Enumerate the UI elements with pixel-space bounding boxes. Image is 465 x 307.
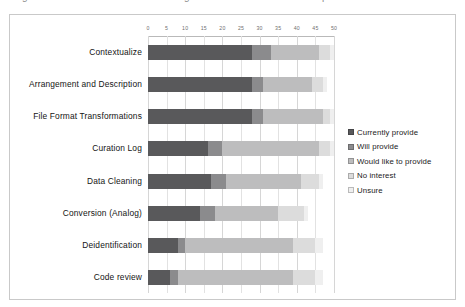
bar-segment[interactable] xyxy=(148,45,252,60)
bar-row[interactable]: Deidentification xyxy=(148,229,334,261)
stacked-bar[interactable] xyxy=(148,238,334,253)
bar-segment[interactable] xyxy=(211,174,226,189)
x-tick-label: 15 xyxy=(201,25,207,31)
bar-segment[interactable] xyxy=(293,238,315,253)
bar-segment[interactable] xyxy=(148,77,252,92)
stacked-bar[interactable] xyxy=(148,174,334,189)
bar-segment[interactable] xyxy=(330,109,334,124)
bar-segment[interactable] xyxy=(315,270,322,285)
bar-segment[interactable] xyxy=(148,238,178,253)
category-label: Curation Log xyxy=(92,143,142,153)
bar-series-container: ContextualizeArrangement and Description… xyxy=(148,36,334,293)
x-axis-tick-labels: 05101520253035404550 xyxy=(148,25,334,36)
bar-row[interactable]: Conversion (Analog) xyxy=(148,197,334,229)
bar-segment[interactable] xyxy=(323,109,330,124)
bar-segment[interactable] xyxy=(208,141,223,156)
bar-segment[interactable] xyxy=(148,206,200,221)
legend-label: No interest xyxy=(357,171,396,180)
gridline xyxy=(334,36,335,293)
legend-swatch-icon xyxy=(348,158,354,164)
legend-item[interactable]: Currently provide xyxy=(348,127,452,137)
bar-segment[interactable] xyxy=(178,270,293,285)
bar-segment[interactable] xyxy=(200,206,215,221)
plot-area: 05101520253035404550 ContextualizeArrang… xyxy=(148,25,334,293)
x-tick-label: 25 xyxy=(238,25,244,31)
bar-segment[interactable] xyxy=(170,270,177,285)
cut-text-fragment-3: g xyxy=(184,0,190,2)
legend-swatch-icon xyxy=(348,173,354,179)
x-tick-label: 10 xyxy=(182,25,188,31)
stacked-bar[interactable] xyxy=(148,206,334,221)
bar-row[interactable]: Contextualize xyxy=(148,36,334,68)
legend-swatch-icon xyxy=(348,144,354,150)
bar-segment[interactable] xyxy=(319,45,330,60)
x-tick-label: 30 xyxy=(257,25,263,31)
bar-segment[interactable] xyxy=(319,141,330,156)
chart-figure: 05101520253035404550 ContextualizeArrang… xyxy=(9,14,456,300)
bar-segment[interactable] xyxy=(215,206,278,221)
bar-row[interactable]: File Format Transformations xyxy=(148,100,334,132)
stacked-bar[interactable] xyxy=(148,45,334,60)
bar-segment[interactable] xyxy=(323,77,327,92)
bar-segment[interactable] xyxy=(304,206,308,221)
stacked-bar[interactable] xyxy=(148,109,334,124)
bar-segment[interactable] xyxy=(293,270,315,285)
bar-row[interactable]: Curation Log xyxy=(148,132,334,164)
x-tick-label: 0 xyxy=(146,25,149,31)
category-label: Conversion (Analog) xyxy=(63,208,142,218)
cut-text-fragment-4: p xyxy=(322,0,328,2)
bar-segment[interactable] xyxy=(226,174,300,189)
bar-row[interactable]: Arrangement and Description xyxy=(148,68,334,100)
category-label: Arrangement and Description xyxy=(29,79,142,89)
bar-segment[interactable] xyxy=(252,109,263,124)
bar-segment[interactable] xyxy=(263,109,323,124)
legend-item[interactable]: Would like to provide xyxy=(348,156,452,166)
bar-segment[interactable] xyxy=(178,238,185,253)
stacked-bar[interactable] xyxy=(148,270,334,285)
bar-segment[interactable] xyxy=(330,45,334,60)
bar-segment[interactable] xyxy=(148,174,211,189)
category-label: Contextualize xyxy=(89,47,142,57)
bar-segment[interactable] xyxy=(222,141,319,156)
chart-legend: Currently provideWill provideWould like … xyxy=(348,127,452,200)
category-label: Code review xyxy=(94,272,142,282)
bar-segment[interactable] xyxy=(148,270,170,285)
cut-text-fragment-1: g xyxy=(22,0,28,2)
stacked-bar[interactable] xyxy=(148,77,334,92)
bar-segment[interactable] xyxy=(278,206,304,221)
bar-segment[interactable] xyxy=(185,238,293,253)
bar-segment[interactable] xyxy=(301,174,320,189)
legend-label: Will provide xyxy=(357,142,399,151)
bar-segment[interactable] xyxy=(252,45,271,60)
legend-item[interactable]: Will provide xyxy=(348,142,452,152)
legend-label: Unsure xyxy=(357,186,383,195)
legend-swatch-icon xyxy=(348,187,354,193)
cut-text-fragment-2: rr xyxy=(78,0,85,2)
bar-segment[interactable] xyxy=(315,238,322,253)
bar-segment[interactable] xyxy=(319,174,323,189)
bar-segment[interactable] xyxy=(263,77,311,92)
legend-item[interactable]: Unsure xyxy=(348,185,452,195)
legend-label: Would like to provide xyxy=(357,157,431,166)
bar-segment[interactable] xyxy=(252,77,263,92)
category-label: Data Cleaning xyxy=(87,176,142,186)
bar-row[interactable]: Data Cleaning xyxy=(148,165,334,197)
bar-segment[interactable] xyxy=(148,109,252,124)
cut-off-text-strip: g rr g p xyxy=(0,0,465,12)
x-tick-label: 35 xyxy=(275,25,281,31)
category-label: File Format Transformations xyxy=(33,111,142,121)
bar-segment[interactable] xyxy=(148,141,208,156)
bar-row[interactable]: Code review xyxy=(148,261,334,293)
bar-segment[interactable] xyxy=(330,141,334,156)
legend-swatch-icon xyxy=(348,129,354,135)
legend-item[interactable]: No interest xyxy=(348,171,452,181)
category-label: Deidentification xyxy=(82,240,142,250)
x-tick-label: 20 xyxy=(219,25,225,31)
bar-segment[interactable] xyxy=(271,45,319,60)
x-tick-label: 50 xyxy=(331,25,337,31)
legend-label: Currently provide xyxy=(357,128,418,137)
x-tick-label: 45 xyxy=(312,25,318,31)
x-tick-label: 5 xyxy=(165,25,168,31)
stacked-bar[interactable] xyxy=(148,141,334,156)
bar-segment[interactable] xyxy=(312,77,323,92)
